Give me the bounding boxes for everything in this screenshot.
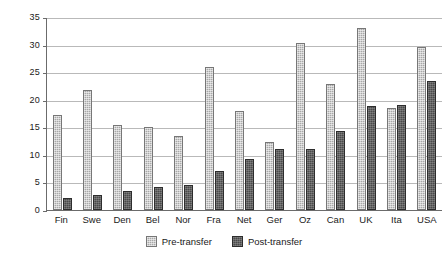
- bar-pre-transfer: [326, 84, 335, 210]
- bar-pre-transfer: [417, 47, 426, 210]
- legend-label: Post-transfer: [248, 237, 302, 247]
- x-axis-tick-label: Swe: [76, 213, 106, 229]
- bar-post-transfer: [123, 191, 132, 210]
- bar-groups: [47, 18, 442, 210]
- x-axis-tick-label: Den: [107, 213, 137, 229]
- bar-post-transfer: [427, 81, 436, 210]
- y-axis-tick-label: 10: [0, 151, 40, 160]
- bar-group: [47, 18, 77, 210]
- bar-group: [199, 18, 229, 210]
- bar-post-transfer: [306, 149, 315, 210]
- y-axis-tick-label: 5: [0, 178, 40, 187]
- chart-legend: Pre-transferPost-transfer: [0, 236, 448, 247]
- x-axis-tick-label: Ita: [381, 213, 411, 229]
- bar-pre-transfer: [357, 28, 366, 210]
- bar-pre-transfer: [144, 127, 153, 210]
- bar-post-transfer: [93, 195, 102, 210]
- bar-pre-transfer: [53, 115, 62, 210]
- bar-chart: 05101520253035 FinSweDenBelNorFraNetGerO…: [0, 0, 448, 264]
- bar-pre-transfer: [235, 111, 244, 210]
- bar-group: [351, 18, 381, 210]
- bar-pre-transfer: [265, 142, 274, 210]
- x-axis-tick-label: Net: [229, 213, 259, 229]
- y-axis-tick-label: 25: [0, 68, 40, 77]
- bar-group: [77, 18, 107, 210]
- x-axis-tick-label: Ger: [259, 213, 289, 229]
- y-axis-tick: [43, 211, 47, 212]
- bar-pre-transfer: [296, 43, 305, 210]
- x-axis-tick-label: Oz: [290, 213, 320, 229]
- x-axis-tick-label: Fin: [46, 213, 76, 229]
- bar-group: [108, 18, 138, 210]
- x-axis-tick-label: Nor: [168, 213, 198, 229]
- bar-post-transfer: [215, 171, 224, 210]
- bar-group: [229, 18, 259, 210]
- x-axis-tick-label: Bel: [137, 213, 167, 229]
- bar-group: [381, 18, 411, 210]
- y-axis-tick-label: 35: [0, 13, 40, 22]
- bar-group: [412, 18, 442, 210]
- bar-post-transfer: [63, 198, 72, 210]
- x-axis-tick-label: UK: [351, 213, 381, 229]
- bar-pre-transfer: [205, 67, 214, 210]
- legend-label: Pre-transfer: [162, 237, 212, 247]
- bar-post-transfer: [245, 159, 254, 210]
- bar-group: [138, 18, 168, 210]
- x-axis-tick-labels: FinSweDenBelNorFraNetGerOzCanUKItaUSA: [46, 213, 442, 229]
- legend-item: Post-transfer: [232, 236, 302, 247]
- x-axis-tick-label: USA: [412, 213, 442, 229]
- plot-area: [46, 18, 442, 211]
- bar-pre-transfer: [387, 108, 396, 210]
- legend-item: Pre-transfer: [146, 236, 212, 247]
- pre-transfer-swatch: [146, 236, 157, 247]
- bar-post-transfer: [154, 187, 163, 210]
- bar-pre-transfer: [113, 125, 122, 210]
- y-axis-tick-label: 20: [0, 96, 40, 105]
- bar-pre-transfer: [174, 136, 183, 210]
- post-transfer-swatch: [232, 236, 243, 247]
- bar-group: [169, 18, 199, 210]
- bar-group: [321, 18, 351, 210]
- y-axis-tick-label: 0: [0, 206, 40, 215]
- bar-post-transfer: [184, 185, 193, 210]
- y-axis-tick-label: 30: [0, 41, 40, 50]
- bar-pre-transfer: [83, 90, 92, 210]
- x-axis-tick-label: Fra: [198, 213, 228, 229]
- bar-group: [290, 18, 320, 210]
- bar-post-transfer: [275, 149, 284, 210]
- bar-post-transfer: [367, 106, 376, 210]
- bar-post-transfer: [397, 105, 406, 210]
- x-axis-tick-label: Can: [320, 213, 350, 229]
- bar-group: [260, 18, 290, 210]
- y-axis-tick-label: 15: [0, 123, 40, 132]
- bar-post-transfer: [336, 131, 345, 210]
